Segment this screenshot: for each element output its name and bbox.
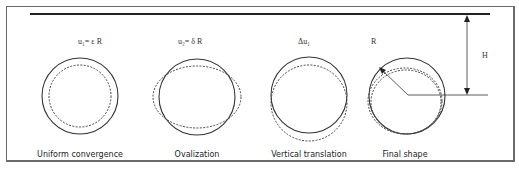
- panel-vertical-translation: Δu₁ Vertical translation: [271, 37, 347, 159]
- caption-translation: Vertical translation: [271, 150, 347, 159]
- panel-final-shape: R Final shape: [368, 37, 488, 159]
- panel-label-ovalization: u₂= δ R: [178, 37, 203, 46]
- original-circle: [42, 58, 118, 134]
- tunnel-deformation-diagram: u₁= ε R Uniform convergence u₂= δ R Oval…: [0, 0, 519, 172]
- depth-arrow-top: [464, 15, 470, 22]
- deformed-circle: [49, 65, 111, 127]
- caption-ovalization: Ovalization: [175, 150, 220, 159]
- panel-label-uniform: u₁= ε R: [78, 37, 103, 46]
- caption-final: Final shape: [382, 150, 427, 159]
- panel-uniform-convergence: u₁= ε R Uniform convergence: [37, 37, 123, 159]
- caption-uniform: Uniform convergence: [37, 150, 123, 159]
- translated-circle: [271, 65, 347, 141]
- final-deformed-contour-inner: [371, 70, 441, 134]
- panel-ovalization: u₂= δ R Ovalization: [153, 37, 241, 159]
- original-circle: [271, 57, 347, 133]
- panel-label-radius: R: [371, 37, 377, 46]
- original-circle: [159, 59, 235, 135]
- depth-dimension: H: [464, 15, 488, 95]
- radius-line: [382, 70, 408, 95]
- panel-label-translation: Δu₁: [298, 37, 310, 46]
- depth-label: H: [482, 51, 488, 60]
- depth-arrow-bottom: [464, 88, 470, 95]
